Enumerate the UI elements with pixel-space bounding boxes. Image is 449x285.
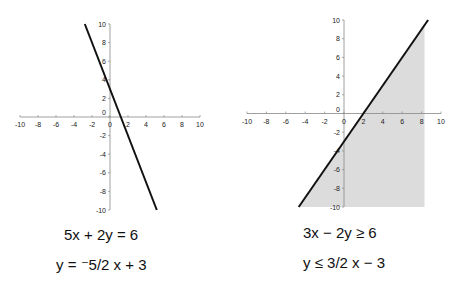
x-tick-label: 6 — [162, 121, 166, 128]
y-tick-label: 2 — [102, 95, 106, 102]
right-inequality-slope-intercept: y ≤ 3/2 x − 3 — [303, 254, 385, 271]
y-tick-label: -2 — [100, 132, 106, 139]
y-tick-label: 10 — [332, 17, 340, 24]
y-tick-label: -4 — [100, 151, 106, 158]
x-tick-label: -10 — [242, 118, 252, 125]
x-tick-label: -8 — [35, 121, 41, 128]
y-tick-label: -2 — [334, 129, 340, 136]
y-tick-label: -10 — [330, 204, 340, 211]
x-tick-label: 10 — [196, 121, 204, 128]
x-tick-label: 6 — [400, 118, 404, 125]
x-tick-label: 8 — [420, 118, 424, 125]
x-tick-label: -4 — [302, 118, 308, 125]
x-tick-label: 2 — [361, 118, 365, 125]
y-tick-label: 8 — [336, 35, 340, 42]
x-tick-label: -4 — [71, 121, 77, 128]
x-tick-label: 8 — [180, 121, 184, 128]
y-tick-label: -8 — [334, 185, 340, 192]
x-tick-label: 4 — [381, 118, 385, 125]
x-tick-label: 10 — [437, 118, 445, 125]
y-tick-label: -6 — [334, 166, 340, 173]
y-tick-label: 8 — [102, 39, 106, 46]
x-tick-label: 0 — [108, 121, 112, 128]
x-tick-label: 2 — [126, 121, 130, 128]
right-inequality-standard: 3x − 2y ≥ 6 — [303, 224, 377, 241]
x-tick-label: -8 — [263, 118, 269, 125]
left-equation-standard: 5x + 2y = 6 — [64, 226, 138, 243]
x-tick-label: -6 — [53, 121, 59, 128]
x-tick-label: -10 — [15, 121, 25, 128]
left-equation-slope-intercept: y = ⁻5/2 x + 3 — [56, 256, 147, 274]
origin-label: 0 — [102, 109, 106, 116]
y-tick-label: -6 — [100, 169, 106, 176]
x-tick-label: -6 — [283, 118, 289, 125]
y-tick-label: -10 — [96, 207, 106, 214]
x-tick-label: 4 — [144, 121, 148, 128]
x-tick-label: -2 — [89, 121, 95, 128]
y-tick-label: -8 — [100, 188, 106, 195]
x-tick-label: -2 — [321, 118, 327, 125]
x-tick-label: 0 — [342, 118, 346, 125]
origin-label: 0 — [336, 106, 340, 113]
y-tick-label: 6 — [102, 58, 106, 65]
y-tick-label: 10 — [98, 21, 106, 28]
y-tick-label: 2 — [336, 91, 340, 98]
y-tick-label: 4 — [336, 73, 340, 80]
y-tick-label: 6 — [336, 54, 340, 61]
